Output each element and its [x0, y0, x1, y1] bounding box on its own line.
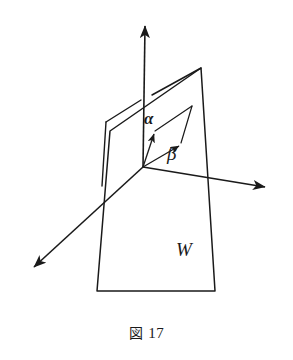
- front-left-axis: [34, 167, 143, 267]
- subspace-w-label: W: [176, 240, 192, 259]
- caption-kanji: 図: [129, 325, 144, 341]
- figure-container: α β W 図17: [0, 0, 293, 360]
- vertical-axis: [143, 26, 145, 167]
- right-axis: [143, 167, 265, 187]
- alpha-label: α: [144, 110, 153, 127]
- figure-caption: 図17: [0, 322, 293, 342]
- caption-number: 17: [148, 325, 164, 341]
- vector-space-diagram: [0, 0, 293, 360]
- plane-w-outline: [97, 68, 215, 291]
- beta-label: β: [167, 144, 176, 163]
- side-panel-left-edge: [102, 122, 106, 186]
- side-panel-top-edge: [106, 100, 141, 122]
- parallelogram-edge-alpha-to-sum: [155, 106, 192, 131]
- plane-w-back-edge: [152, 68, 201, 95]
- parallelogram-edge-sum-to-beta: [181, 106, 192, 143]
